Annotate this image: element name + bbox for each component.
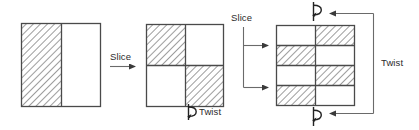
stage-3-cell-r2c0 bbox=[277, 66, 316, 86]
stage-3-cell-r1c0 bbox=[277, 46, 316, 66]
stage-2-cell-r1c0 bbox=[147, 66, 186, 107]
stage-3-cell-r2c1 bbox=[316, 66, 355, 86]
twist-label-2: Twist bbox=[381, 58, 403, 68]
twist-2-loop bbox=[314, 5, 322, 15]
stage-3-cell-r0c0 bbox=[277, 26, 316, 46]
slice-label-1: Slice bbox=[110, 52, 131, 62]
twist-3-loop bbox=[314, 110, 322, 120]
stage-3-cell-r0c1 bbox=[316, 26, 355, 46]
stage-2-cell-r0c0 bbox=[147, 25, 186, 66]
stage-2-cell-r0c1 bbox=[186, 25, 224, 66]
stage-1-cell-r0c1 bbox=[62, 24, 101, 107]
stage-2-square bbox=[147, 25, 224, 107]
stage-1-cell-r0c0 bbox=[22, 24, 62, 107]
stage-3-cell-r3c1 bbox=[316, 86, 355, 106]
stage-2-cell-r1c1 bbox=[186, 66, 224, 107]
twist-rotation-icon-3 bbox=[312, 107, 321, 126]
slice-arrow-2 bbox=[244, 27, 269, 88]
stage-1-square bbox=[22, 24, 101, 107]
stage-3-cell-r3c0 bbox=[277, 86, 316, 106]
twist-rotation-icon-2 bbox=[312, 2, 321, 21]
stage-3-square bbox=[277, 26, 355, 106]
twist-label-1: Twist bbox=[199, 107, 221, 117]
twist-1-loop bbox=[189, 107, 197, 116]
stage-3-cell-r1c1 bbox=[316, 46, 355, 66]
slice-label-2: Slice bbox=[231, 13, 252, 23]
diagram-canvas: Slice Slice Twist Twist bbox=[0, 0, 419, 130]
